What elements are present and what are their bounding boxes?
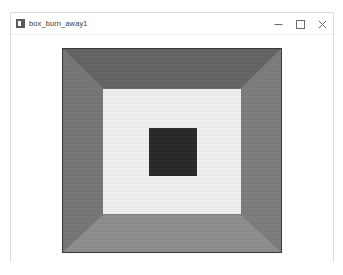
maximize-icon xyxy=(295,19,306,30)
minimize-button[interactable] xyxy=(267,13,289,35)
close-button[interactable] xyxy=(311,13,333,35)
window-title: box_burn_away1 xyxy=(29,13,88,35)
image-file-icon xyxy=(16,19,25,28)
window-controls xyxy=(267,13,333,35)
center-dark-square xyxy=(149,128,197,175)
close-icon xyxy=(317,19,328,30)
title-bar[interactable]: box_burn_away1 xyxy=(11,13,333,35)
image-canvas-area xyxy=(11,35,333,262)
maximize-button[interactable] xyxy=(289,13,311,35)
minimize-icon xyxy=(273,19,284,30)
rendered-box-image xyxy=(62,48,282,253)
box-back-wall xyxy=(103,89,240,215)
application-window: box_burn_away1 xyxy=(10,12,334,262)
